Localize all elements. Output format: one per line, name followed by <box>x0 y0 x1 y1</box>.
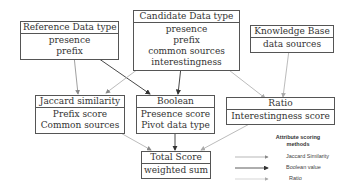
legend-title-line: methods <box>258 141 338 148</box>
node-line: interestingness <box>136 57 237 68</box>
node-title: Reference Data type <box>21 22 118 34</box>
legend-label-ratio: Ratio <box>289 175 302 181</box>
legend-label-boolean: Boolean value <box>286 164 321 170</box>
node-line: prefix <box>136 35 237 46</box>
node-title: Candidate Data type <box>134 11 239 23</box>
node-line: Prefix score <box>38 109 122 120</box>
node-line: data sources <box>253 39 331 50</box>
legend-title-line: Attribute scoring <box>258 134 338 141</box>
node-candidate-data-type: Candidate Data type presence prefix comm… <box>133 10 240 71</box>
node-title: Knowledge Base <box>251 26 333 38</box>
node-knowledge-base: Knowledge Base data sources <box>250 25 334 53</box>
node-line: presence <box>136 24 237 35</box>
edge-candidate-ratio <box>225 67 265 98</box>
edge-candidate-boolean <box>178 67 181 94</box>
node-jaccard-similarity: Jaccard similarity Prefix score Common s… <box>35 95 125 134</box>
edge-knowledge-ratio <box>283 50 289 97</box>
node-title: Boolean <box>137 96 214 108</box>
node-line: Interestingness score <box>229 111 332 122</box>
edge-reference-jaccard <box>74 56 78 94</box>
legend-label-jaccard: Jaccard Similarity <box>286 153 329 159</box>
node-title: Ratio <box>227 98 334 110</box>
node-line: Presence score <box>139 109 212 120</box>
node-boolean: Boolean Presence score Pivot data type <box>136 95 215 134</box>
node-title: Jaccard similarity <box>36 96 124 108</box>
node-ratio: Ratio Interestingness score <box>226 97 335 125</box>
node-line: prefix <box>23 46 116 57</box>
node-line: common sources <box>136 46 237 57</box>
node-line: Common sources <box>38 120 122 131</box>
node-total-score: Total Score weighted sum <box>141 151 211 179</box>
legend-title: Attribute scoring methods <box>258 134 338 148</box>
node-title: Total Score <box>142 152 210 164</box>
node-line: weighted sum <box>144 165 208 176</box>
node-line: Pivot data type <box>139 120 212 131</box>
node-reference-data-type: Reference Data type presence prefix <box>20 21 119 60</box>
node-line: presence <box>23 35 116 46</box>
